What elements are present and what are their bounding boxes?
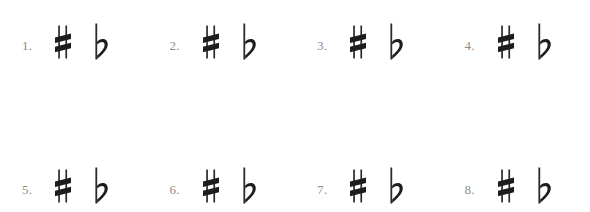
exercise-item-6[interactable]: 6. <box>148 158 296 212</box>
flat-icon <box>535 23 555 61</box>
item-number: 6. <box>170 177 200 196</box>
sharp-icon <box>495 25 517 59</box>
item-number: 5. <box>22 177 52 196</box>
sharp-slot[interactable] <box>495 169 535 203</box>
exercise-row-bottom: 5. <box>0 158 590 212</box>
sharp-icon <box>200 25 222 59</box>
flat-slot[interactable] <box>535 167 575 205</box>
flat-icon <box>92 23 112 61</box>
item-number: 1. <box>22 33 52 52</box>
flat-icon <box>92 167 112 205</box>
item-number: 3. <box>317 33 347 52</box>
sharp-icon <box>495 169 517 203</box>
sharp-icon <box>347 169 369 203</box>
flat-slot[interactable] <box>387 167 427 205</box>
sharp-slot[interactable] <box>52 25 92 59</box>
sharp-slot[interactable] <box>347 169 387 203</box>
sharp-icon <box>52 169 74 203</box>
item-number: 4. <box>465 33 495 52</box>
sharp-icon <box>52 25 74 59</box>
flat-icon <box>387 23 407 61</box>
flat-icon <box>387 167 407 205</box>
item-number: 2. <box>170 33 200 52</box>
flat-icon <box>240 23 260 61</box>
flat-slot[interactable] <box>92 23 132 61</box>
exercise-item-7[interactable]: 7. <box>295 158 443 212</box>
item-number: 8. <box>465 177 495 196</box>
accidentals-worksheet: 1. <box>0 0 590 212</box>
sharp-slot[interactable] <box>52 169 92 203</box>
flat-icon <box>240 167 260 205</box>
sharp-slot[interactable] <box>200 25 240 59</box>
sharp-slot[interactable] <box>495 25 535 59</box>
exercise-row-top: 1. <box>0 14 590 70</box>
sharp-icon <box>347 25 369 59</box>
flat-icon <box>535 167 555 205</box>
sharp-icon <box>200 169 222 203</box>
flat-slot[interactable] <box>240 23 280 61</box>
exercise-item-5[interactable]: 5. <box>0 158 148 212</box>
exercise-item-2[interactable]: 2. <box>148 14 296 70</box>
flat-slot[interactable] <box>387 23 427 61</box>
flat-slot[interactable] <box>535 23 575 61</box>
item-number: 7. <box>317 177 347 196</box>
exercise-item-4[interactable]: 4. <box>443 14 590 70</box>
sharp-slot[interactable] <box>200 169 240 203</box>
exercise-item-3[interactable]: 3. <box>295 14 443 70</box>
sharp-slot[interactable] <box>347 25 387 59</box>
flat-slot[interactable] <box>92 167 132 205</box>
exercise-item-8[interactable]: 8. <box>443 158 590 212</box>
flat-slot[interactable] <box>240 167 280 205</box>
exercise-item-1[interactable]: 1. <box>0 14 148 70</box>
